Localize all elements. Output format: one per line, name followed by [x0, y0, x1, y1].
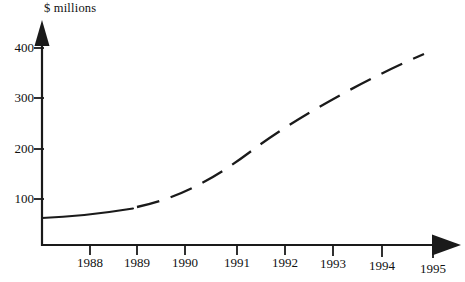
x-tick-label-1990: 1990 [163, 255, 207, 271]
y-axis-title: $ millions [44, 1, 96, 16]
x-tick-label-1992: 1992 [263, 255, 307, 271]
y-tick-label-400: 400 [8, 40, 34, 56]
y-tick-label-100: 100 [8, 191, 34, 207]
x-axis-arrowhead-icon [432, 235, 461, 256]
x-tick-label-1995: 1995 [411, 261, 455, 277]
chart-container: $ millions 400 300 200 100 1988 1989 199… [0, 0, 465, 282]
y-axis-arrowhead-icon [35, 20, 50, 46]
x-tick-label-1994: 1994 [360, 258, 404, 274]
x-tick-label-1988: 1988 [68, 255, 112, 271]
x-tick-label-1989: 1989 [115, 255, 159, 271]
x-tick-label-1991: 1991 [215, 255, 259, 271]
x-tick-label-1993: 1993 [311, 256, 355, 272]
data-curve-dashed [137, 54, 424, 207]
data-curve-solid [42, 209, 133, 219]
y-tick-label-300: 300 [8, 90, 34, 106]
chart-plot-area [0, 0, 465, 282]
y-tick-label-200: 200 [8, 141, 34, 157]
